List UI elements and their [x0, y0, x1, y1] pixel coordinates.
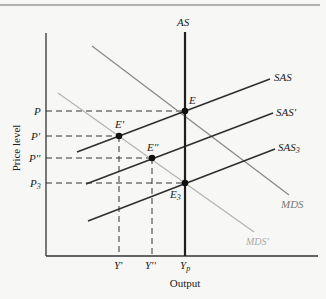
output-y-double-prime-label: Y'' — [145, 259, 156, 271]
mds-prime-curve — [58, 93, 254, 232]
mds-label: MDS — [280, 198, 304, 210]
e3-label: E3 — [169, 188, 181, 202]
price-p3-label: P3 — [29, 177, 41, 191]
y-axis-title: Price level — [10, 125, 22, 172]
e-label: E — [188, 94, 196, 106]
as-label: AS — [176, 16, 190, 28]
sas3-curve — [88, 149, 275, 221]
e-prime-label: E' — [114, 118, 125, 130]
x-axis-title: Output — [170, 277, 201, 289]
dashed-guides — [46, 111, 185, 256]
price-p-label: P — [33, 105, 41, 117]
price-p-prime-label: P' — [30, 130, 41, 142]
equilibrium-e — [182, 108, 189, 115]
equilibrium-e3 — [182, 180, 189, 187]
ad-as-diagram: AS SAS SAS' SAS3 MDS MDS' E E' E'' E3 P … — [0, 0, 326, 299]
sas-label: SAS — [274, 71, 292, 83]
sas-curve — [77, 79, 270, 152]
equilibrium-e-prime — [116, 133, 123, 140]
output-y-prime-label: Y' — [114, 259, 123, 271]
output-yp-label: Yp — [180, 259, 190, 273]
equilibrium-e-double-prime — [149, 155, 156, 162]
e-double-prime-label: E'' — [146, 141, 159, 153]
sas3-label: SAS3 — [278, 141, 300, 155]
mds-prime-label: MDS' — [245, 236, 270, 247]
price-p-double-prime-label: P'' — [28, 152, 41, 164]
sas-prime-label: SAS' — [276, 106, 297, 118]
